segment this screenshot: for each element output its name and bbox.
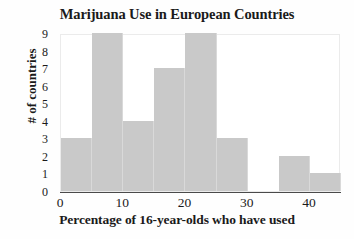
histogram-bar (92, 33, 123, 191)
histogram-bar (154, 68, 185, 191)
y-tick-label: 4 (30, 116, 48, 128)
y-tick-label: 3 (30, 133, 48, 145)
x-tick-label: 30 (227, 195, 267, 211)
x-axis-line (60, 192, 341, 193)
y-tick-label: 7 (30, 63, 48, 75)
histogram-bar (61, 138, 92, 191)
y-tick-label: 2 (30, 151, 48, 163)
y-tick-label: 5 (30, 98, 48, 110)
x-tick-label: 20 (164, 195, 204, 211)
histogram-bar (123, 121, 154, 191)
histogram-figure: Marijuana Use in European Countries # of… (0, 0, 354, 239)
histogram-bar (310, 173, 341, 191)
y-tick-label: 8 (30, 46, 48, 58)
histogram-bar (279, 156, 310, 191)
x-axis-title: Percentage of 16-year-olds who have used (0, 212, 354, 228)
x-tick-label: 0 (40, 195, 80, 211)
y-tick-label: 6 (30, 81, 48, 93)
y-axis-tick-labels: 0123456789 (30, 30, 48, 198)
plot-area (61, 35, 339, 191)
plot-frame (60, 34, 340, 192)
histogram-bar (185, 33, 216, 191)
x-tick-label: 40 (289, 195, 329, 211)
histogram-bar (217, 138, 248, 191)
x-axis-tick-labels: 010203040 (60, 195, 341, 211)
chart-title: Marijuana Use in European Countries (0, 6, 354, 23)
x-tick-label: 10 (102, 195, 142, 211)
y-tick-label: 9 (30, 28, 48, 40)
y-tick-label: 1 (30, 168, 48, 180)
